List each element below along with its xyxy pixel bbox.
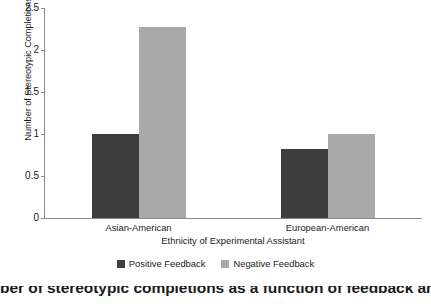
bar-chart-figure: Number of Stereotypic Completions 00.511… (0, 0, 431, 304)
y-axis-tick-mark (41, 8, 45, 9)
y-axis-line (44, 8, 45, 219)
bar (139, 27, 186, 218)
bar (281, 149, 328, 218)
bar (92, 134, 139, 218)
bar (328, 134, 375, 218)
x-axis-title: Ethnicity of Experimental Assistant (44, 235, 422, 246)
y-axis-tick-label: 2 (14, 45, 39, 55)
y-axis-tick-label: 0 (14, 213, 39, 223)
y-axis-tick-mark (41, 134, 45, 135)
y-axis-tick-mark (41, 176, 45, 177)
y-axis-tick-label: 1 (14, 129, 39, 139)
y-axis-tick-mark (41, 218, 45, 219)
legend-item: Positive Feedback (117, 258, 206, 269)
legend-swatch-icon (117, 260, 125, 268)
legend-item: Negative Feedback (221, 258, 314, 269)
y-axis-tick-mark (41, 92, 45, 93)
x-axis-line (44, 218, 422, 219)
legend-label: Positive Feedback (129, 258, 206, 269)
y-axis-tick-label: 2.5 (14, 3, 39, 13)
y-axis-tick-mark (41, 50, 45, 51)
figure-caption: ber of stereotypic completions as a func… (0, 286, 431, 304)
x-axis-category-label: Asian-American (44, 222, 233, 233)
x-axis-category-label: European-American (233, 222, 422, 233)
legend-label: Negative Feedback (233, 258, 314, 269)
chart-legend: Positive FeedbackNegative Feedback (0, 258, 431, 269)
y-axis-tick-label: 0.5 (14, 171, 39, 181)
plot-area (44, 8, 422, 219)
y-axis-tick-label: 1.5 (14, 87, 39, 97)
legend-swatch-icon (221, 260, 229, 268)
